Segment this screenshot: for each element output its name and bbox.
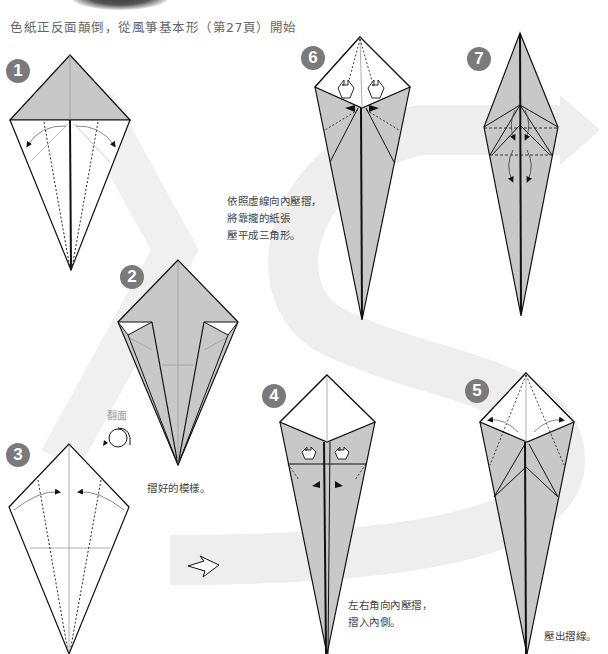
- step-5-note: 壓出摺線。: [544, 628, 597, 645]
- step-3-figure: [9, 444, 129, 654]
- step-6-note-line-3: 壓平成三角形。: [227, 227, 322, 244]
- flip-over-icon: [103, 428, 130, 447]
- step-7-figure: [484, 33, 558, 316]
- step-6-note-line-2: 將靠攏的紙張: [227, 210, 322, 227]
- step-1-figure: [10, 55, 130, 270]
- step-badge-3: 3: [6, 443, 30, 467]
- step-badge-7: 7: [467, 47, 491, 71]
- step-badge-2: 2: [120, 265, 144, 289]
- step-2-note: 摺好的模樣。: [147, 480, 210, 497]
- step-4-note-line-1: 左右角向內壓摺，: [348, 597, 432, 614]
- step-4-note-line-2: 摺入內側。: [348, 614, 432, 631]
- folding-diagram: [0, 0, 608, 654]
- step-badge-6: 6: [301, 46, 325, 70]
- step-6-note: 依照虛線向內壓摺， 將靠攏的紙張 壓平成三角形。: [227, 193, 322, 244]
- step-6-note-line-1: 依照虛線向內壓摺，: [227, 193, 322, 210]
- step-badge-1: 1: [6, 59, 30, 83]
- flip-label: 翻面: [107, 407, 127, 422]
- step-badge-4: 4: [262, 384, 286, 408]
- step-badge-5: 5: [465, 379, 489, 403]
- step-4-note: 左右角向內壓摺， 摺入內側。: [348, 597, 432, 631]
